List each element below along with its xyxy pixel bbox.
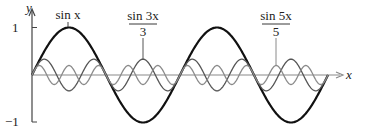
y-tick-label-neg1: −1: [5, 114, 19, 129]
y-tick-label-1: 1: [12, 20, 19, 35]
label-sin-x: sin x: [56, 7, 81, 22]
label-sin-3x-numerator: sin 3x: [127, 8, 159, 23]
x-axis-label: x: [345, 67, 352, 82]
sine-series-chart: x y 1 −1 sin x sin 3x 3 sin 5x 5: [0, 0, 371, 135]
y-axis-label: y: [24, 0, 32, 15]
label-sin-5x-denominator: 5: [273, 24, 280, 39]
label-sin-3x-denominator: 3: [140, 24, 147, 39]
label-sin-5x-numerator: sin 5x: [260, 8, 292, 23]
curve-sin-5x-over-5: [32, 66, 328, 85]
